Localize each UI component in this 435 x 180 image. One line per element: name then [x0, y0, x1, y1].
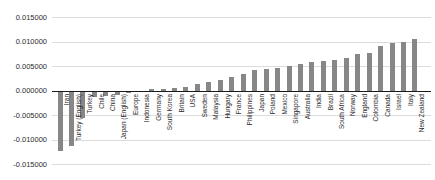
- bar-india: [309, 62, 314, 91]
- x-tick-label: New Zealand: [418, 94, 425, 132]
- bar-israel: [390, 43, 395, 91]
- x-tick-label: Germany: [155, 94, 162, 121]
- x-tick-label: Mexico: [281, 94, 288, 115]
- x-tick-label: Canada: [384, 94, 391, 117]
- bar-poland: [264, 69, 269, 91]
- gridline: [52, 42, 431, 43]
- bar-chart: 0.0150000.0100000.0050000.000000-0.00500…: [0, 0, 435, 180]
- x-tick-label: Turkey (English): [75, 94, 82, 141]
- x-tick-label: Sweden: [201, 94, 208, 118]
- bar-norway: [344, 58, 349, 91]
- y-tick-label: 0.000000: [0, 87, 47, 95]
- x-tick-label: Japan: [258, 94, 265, 112]
- x-axis-line: [52, 91, 431, 92]
- x-tick-label: Indonesia: [143, 94, 150, 122]
- x-tick-label: USA: [189, 94, 196, 107]
- bar-philippines: [241, 74, 246, 91]
- x-tick-label: Brazil: [327, 94, 334, 110]
- x-tick-label: Hungary: [224, 94, 231, 119]
- x-tick-label: Europe: [132, 94, 139, 115]
- x-tick-label: France: [235, 94, 242, 114]
- x-tick-label: Singapore: [292, 94, 299, 124]
- y-tick-label: -0.015000: [0, 161, 47, 169]
- x-tick-label: Philippines: [246, 94, 253, 125]
- bar-japan: [252, 70, 257, 91]
- x-tick-label: Turkey: [86, 94, 93, 114]
- y-tick-label: -0.010000: [0, 136, 47, 144]
- bar-brazil: [321, 61, 326, 91]
- bar-iran: [58, 91, 63, 151]
- x-tick-label: Japan (English): [120, 94, 127, 139]
- bar-colombia: [367, 53, 372, 91]
- bar-canada: [378, 46, 383, 91]
- bar-new-zealand: [412, 39, 417, 91]
- gridline: [52, 164, 431, 165]
- x-tick-label: South Korea: [166, 94, 173, 130]
- bar-hungary: [218, 80, 223, 91]
- x-tick-label: China: [109, 94, 116, 111]
- x-tick-label: Italy: [407, 94, 414, 106]
- y-tick-label: 0.010000: [0, 38, 47, 46]
- bar-mexico: [275, 68, 280, 91]
- bar-france: [229, 77, 234, 91]
- x-tick-label: Australia: [304, 94, 311, 119]
- x-tick-label: Chile: [98, 94, 105, 109]
- x-tick-label: Malaysia: [212, 94, 219, 120]
- x-tick-label: Colombia: [372, 94, 379, 121]
- x-tick-label: England: [361, 94, 368, 118]
- x-tick-label: Norway: [349, 94, 356, 116]
- bar-australia: [298, 64, 303, 91]
- y-tick-label: 0.005000: [0, 63, 47, 71]
- x-tick-label: Israel: [395, 94, 402, 110]
- y-tick-label: -0.005000: [0, 112, 47, 120]
- y-tick-label: 0.015000: [0, 14, 47, 22]
- gridline: [52, 17, 431, 18]
- bar-italy: [401, 42, 406, 91]
- bar-south-africa: [332, 60, 337, 91]
- x-tick-label: Britain: [178, 94, 185, 112]
- bar-england: [355, 54, 360, 91]
- x-tick-label: South Africa: [338, 94, 345, 129]
- gridline: [52, 140, 431, 141]
- gridline: [52, 66, 431, 67]
- x-tick-label: India: [315, 94, 322, 108]
- bar-singapore: [287, 66, 292, 91]
- x-tick-label: Poland: [269, 94, 276, 114]
- x-tick-label: Iran: [63, 94, 70, 105]
